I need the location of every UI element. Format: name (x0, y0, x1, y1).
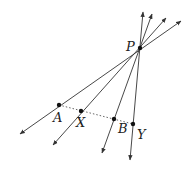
geometry-diagram: P A X B Y (0, 0, 191, 171)
point-X (79, 109, 83, 113)
line-PX (53, 18, 166, 145)
diagram-canvas (0, 0, 191, 171)
label-X: X (76, 116, 85, 129)
points-group (57, 46, 142, 126)
label-P: P (126, 40, 135, 53)
point-P (138, 46, 142, 50)
label-A: A (53, 111, 62, 124)
rays-group (20, 12, 181, 160)
point-A (57, 103, 61, 107)
point-Y (131, 122, 135, 126)
point-B (112, 117, 116, 121)
label-B: B (118, 122, 128, 135)
label-Y: Y (137, 128, 146, 141)
line-PA (20, 21, 181, 134)
